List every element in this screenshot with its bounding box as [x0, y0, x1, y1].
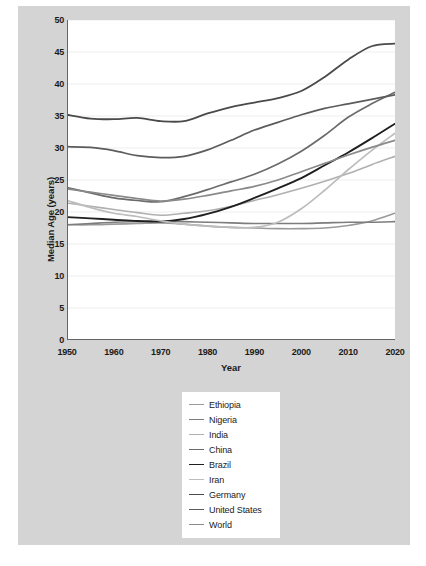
series-line-germany: [67, 44, 395, 122]
legend-item-nigeria[interactable]: Nigeria: [189, 412, 273, 427]
legend-label: United States: [209, 505, 262, 515]
legend-line-swatch: [189, 524, 204, 525]
y-tick-label: 50: [38, 15, 64, 25]
legend-line-swatch: [189, 449, 204, 450]
x-tick-label: 1960: [104, 347, 123, 357]
y-tick-label: 30: [38, 143, 64, 153]
legend-label: World: [209, 520, 232, 530]
legend-line-swatch: [189, 404, 204, 405]
plot-area: [67, 20, 395, 340]
line-chart-svg: [67, 20, 395, 340]
y-tick-label: 40: [38, 79, 64, 89]
series-line-china: [67, 92, 395, 202]
legend-label: Ethiopia: [209, 400, 241, 410]
x-tick-label: 2010: [339, 347, 358, 357]
figure-canvas: Median Age (years) 05101520253035404550 …: [18, 6, 410, 545]
y-tick-label: 35: [38, 111, 64, 121]
x-tick-label: 1970: [151, 347, 170, 357]
legend-line-swatch: [189, 494, 204, 495]
legend-label: Brazil: [209, 460, 231, 470]
y-tick-label: 15: [38, 239, 64, 249]
legend-item-world[interactable]: World: [189, 517, 273, 532]
series-line-iran: [67, 133, 395, 228]
y-tick-label: 0: [38, 335, 64, 345]
legend-line-swatch: [189, 464, 204, 465]
legend-line-swatch: [189, 419, 204, 420]
x-axis-label: Year: [67, 362, 395, 373]
legend-label: China: [209, 445, 232, 455]
chart-legend: EthiopiaNigeriaIndiaChinaBrazilIranGerma…: [182, 392, 280, 538]
legend-item-germany[interactable]: Germany: [189, 487, 273, 502]
y-axis-tick-labels: 05101520253035404550: [34, 20, 64, 340]
legend-label: Germany: [209, 490, 245, 500]
legend-label: Iran: [209, 475, 224, 485]
legend-item-china[interactable]: China: [189, 442, 273, 457]
x-axis-tick-labels: 19501960197019801990200020102020: [67, 344, 395, 360]
x-tick-label: 1980: [198, 347, 217, 357]
legend-item-india[interactable]: India: [189, 427, 273, 442]
y-tick-label: 20: [38, 207, 64, 217]
y-tick-label: 45: [38, 47, 64, 57]
legend-item-iran[interactable]: Iran: [189, 472, 273, 487]
x-tick-label: 2020: [385, 347, 404, 357]
legend-line-swatch: [189, 479, 204, 480]
y-tick-label: 5: [38, 303, 64, 313]
x-tick-label: 1990: [245, 347, 264, 357]
legend-label: India: [209, 430, 228, 440]
legend-line-swatch: [189, 434, 204, 435]
legend-item-ethiopia[interactable]: Ethiopia: [189, 397, 273, 412]
y-tick-label: 10: [38, 271, 64, 281]
legend-item-united-states[interactable]: United States: [189, 502, 273, 517]
x-tick-label: 2000: [292, 347, 311, 357]
x-tick-label: 1950: [57, 347, 76, 357]
legend-item-brazil[interactable]: Brazil: [189, 457, 273, 472]
series-line-ethiopia: [67, 213, 395, 228]
legend-label: Nigeria: [209, 415, 237, 425]
y-tick-label: 25: [38, 175, 64, 185]
legend-line-swatch: [189, 509, 204, 510]
